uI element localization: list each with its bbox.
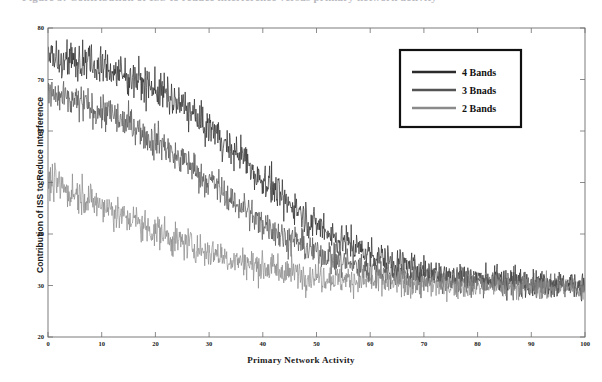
svg-text:70: 70 [421,340,428,347]
svg-text:50: 50 [313,340,320,347]
svg-text:4 Bands: 4 Bands [462,67,496,78]
svg-text:10: 10 [98,340,105,347]
figure-root: Figure 5: Contribution of ISS to reduce … [0,0,602,382]
svg-text:40: 40 [260,340,267,347]
svg-text:100: 100 [580,340,590,347]
y-axis-label: Contribution of ISS to Reduce Interferen… [35,60,45,310]
chart-plot-area: 0102030405060708090100203040506070804 Ba… [0,0,602,382]
svg-text:3 Bnads: 3 Bnads [462,85,496,96]
svg-text:90: 90 [528,340,535,347]
x-axis-label: Primary Network Activity [0,355,602,365]
svg-text:20: 20 [152,340,159,347]
svg-text:20: 20 [38,333,45,340]
svg-text:80: 80 [38,24,45,31]
svg-text:60: 60 [367,340,374,347]
svg-text:80: 80 [474,340,481,347]
svg-text:0: 0 [46,340,49,347]
svg-text:30: 30 [206,340,213,347]
svg-text:2 Bands: 2 Bands [462,103,496,114]
